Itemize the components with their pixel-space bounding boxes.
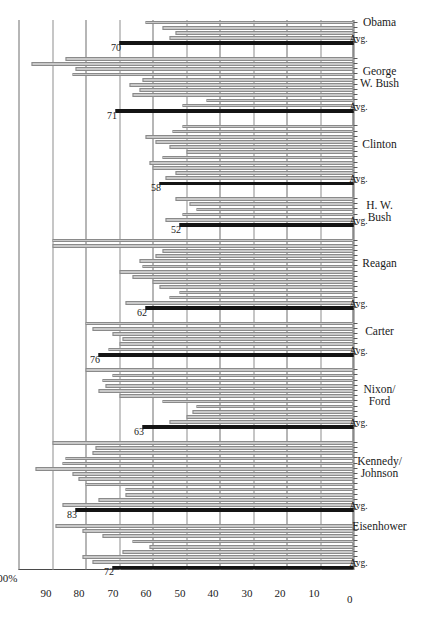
category-tick (353, 416, 357, 417)
y-tick-label-50: 50 (174, 587, 185, 599)
group-label: Eisenhower (352, 520, 406, 532)
category-tick (353, 125, 357, 126)
group-label: Obama (362, 16, 395, 28)
bar (182, 125, 353, 129)
category-tick (353, 447, 357, 448)
bar (119, 342, 354, 346)
bar (189, 202, 353, 206)
gridline-90 (52, 20, 53, 570)
bar (186, 415, 354, 419)
bar (132, 275, 353, 279)
bar (206, 99, 353, 103)
y-tick-label-100%: 100% (0, 572, 17, 584)
bar (139, 88, 353, 92)
category-tick (353, 499, 357, 500)
group-label: George W. Bush (359, 65, 398, 89)
bar (179, 291, 353, 295)
category-tick (353, 151, 357, 152)
bar (145, 135, 353, 139)
category-tick (353, 551, 357, 552)
category-tick (353, 208, 357, 209)
bar (175, 171, 353, 175)
category-tick (353, 297, 357, 298)
category-tick (353, 94, 357, 95)
bar (165, 176, 353, 180)
bar (142, 78, 353, 82)
category-tick (353, 172, 357, 173)
category-tick (353, 291, 357, 292)
y-tick-label-90: 90 (40, 587, 51, 599)
y-tick-label-70: 70 (107, 587, 118, 599)
bar (162, 400, 353, 404)
bar (175, 31, 353, 35)
bar-average (115, 109, 353, 113)
bar (162, 249, 353, 253)
figure: 100%9080706050403020100 Avg.Avg.Avg.Avg.… (0, 0, 423, 618)
category-tick (353, 323, 357, 324)
bar (182, 104, 353, 108)
plot-area (18, 20, 353, 570)
category-tick (353, 328, 357, 329)
bar-average (159, 182, 353, 186)
group-label: Kennedy/ Johnson (357, 454, 402, 478)
avg-caption: Avg. (349, 299, 367, 309)
y-tick-label-60: 60 (140, 587, 151, 599)
category-tick (353, 286, 357, 287)
y-tick-label-20: 20 (274, 587, 285, 599)
value-label-58: 58 (150, 182, 160, 193)
category-tick (353, 380, 357, 381)
bar (108, 348, 353, 352)
bar (102, 534, 353, 538)
value-label-71: 71 (107, 109, 117, 120)
value-label-52: 52 (170, 223, 180, 234)
bar (52, 244, 354, 248)
category-tick (353, 374, 357, 375)
bar (95, 446, 353, 450)
category-tick (353, 79, 357, 80)
bar (92, 327, 353, 331)
category-tick (353, 162, 357, 163)
category-tick (353, 400, 357, 401)
category-tick (353, 281, 357, 282)
category-tick (353, 395, 357, 396)
avg-caption: Avg. (349, 346, 367, 356)
category-tick (353, 214, 357, 215)
group-label: Carter (365, 325, 394, 337)
category-tick (353, 535, 357, 536)
avg-caption: Avg. (349, 174, 367, 184)
bar (62, 503, 353, 507)
category-tick (353, 141, 357, 142)
category-tick (353, 390, 357, 391)
category-tick (353, 240, 357, 241)
bar (125, 488, 353, 492)
category-tick (353, 494, 357, 495)
group-label: H. W. Bush (366, 199, 393, 223)
bar (72, 73, 353, 77)
bar (152, 166, 353, 170)
bar (65, 457, 353, 461)
category-tick (353, 22, 357, 23)
category-tick (353, 406, 357, 407)
bar (172, 130, 353, 134)
category-tick (353, 338, 357, 339)
category-tick (353, 136, 357, 137)
category-tick (353, 271, 357, 272)
bar (169, 296, 353, 300)
bar (75, 67, 353, 71)
category-tick (353, 58, 357, 59)
category-tick (353, 99, 357, 100)
value-label-62: 62 (137, 306, 147, 317)
rotated-figure-wrapper: 100%9080706050403020100 Avg.Avg.Avg.Avg.… (0, 0, 423, 618)
category-tick (353, 203, 357, 204)
bar (112, 374, 353, 378)
category-tick (353, 27, 357, 28)
category-tick (353, 483, 357, 484)
category-tick (353, 68, 357, 69)
bar (162, 156, 353, 160)
bar (98, 389, 353, 393)
bar (52, 239, 354, 243)
value-label-76: 76 (90, 353, 100, 364)
bar (142, 265, 353, 269)
bar (192, 410, 353, 414)
bar (78, 477, 353, 481)
